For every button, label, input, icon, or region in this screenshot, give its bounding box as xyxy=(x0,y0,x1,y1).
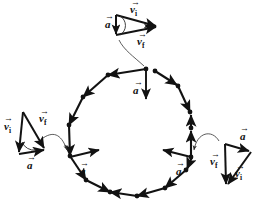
triangle-top-v-initial-sub: i xyxy=(135,9,137,18)
triangle-left-angle-arc xyxy=(22,142,36,150)
polygon-edge xyxy=(86,180,110,192)
triangle-right-acceleration-label: a xyxy=(240,130,246,142)
polygon-vertex xyxy=(184,168,189,173)
vector-triangle-left: → vi → vf → a xyxy=(4,106,49,171)
accel-top-group: → a xyxy=(133,70,146,99)
polygon-edge-group-lower-left xyxy=(70,156,110,192)
triangle-top-acceleration-label: a xyxy=(105,18,111,30)
figure-canvas: → a → a → a xyxy=(0,0,259,211)
connector-right xyxy=(194,134,219,150)
polygon-vertex xyxy=(108,190,113,195)
accel-right-group: → a xyxy=(163,150,191,177)
polygon-edge xyxy=(83,75,108,97)
polygon-vertex xyxy=(67,123,72,128)
polygon-vertex xyxy=(189,126,194,131)
accel-top-label: a xyxy=(133,84,139,96)
triangle-right-acceleration-arrow xyxy=(225,144,249,151)
polygon-vertex xyxy=(163,186,168,191)
triangle-top-v-final-sub: f xyxy=(142,41,145,50)
polygon-vertex xyxy=(188,110,193,115)
acceleration-arrow-left xyxy=(70,150,99,157)
polygon-vertex xyxy=(153,69,158,74)
polygon-vertex xyxy=(81,95,86,100)
polygon-vertex xyxy=(106,73,111,78)
triangle-right-v-final-sub: f xyxy=(215,161,218,170)
accel-right-label: a xyxy=(176,165,182,177)
polygon-edge xyxy=(69,97,83,125)
polygon-edge xyxy=(110,192,137,196)
polygon-vertex xyxy=(135,194,140,199)
polygon-edge xyxy=(108,69,146,75)
polygon-edge xyxy=(178,86,190,112)
polygon-edge xyxy=(69,125,70,156)
triangle-right-v-final-arrow xyxy=(225,144,226,184)
circular-motion-figure: → a → a → a xyxy=(0,0,259,211)
triangle-left-v-final-sub: f xyxy=(44,118,47,127)
triangle-top-angle-arc xyxy=(120,16,125,35)
polygon-edge-group-upper-right xyxy=(155,71,190,112)
polygon-vertex xyxy=(84,178,89,183)
connector-left xyxy=(43,134,67,150)
vector-triangle-top: → vi → a → vf xyxy=(105,0,156,50)
polygon-edge xyxy=(137,188,165,196)
accel-left-label: a xyxy=(80,165,86,177)
triangle-right-v-initial-sub: i xyxy=(240,173,242,182)
acceleration-arrow-right xyxy=(163,150,191,157)
polygon-path xyxy=(67,67,194,199)
acceleration-markers: → a → a → a xyxy=(70,70,191,177)
polygon-edge xyxy=(155,71,177,85)
triangle-left-v-initial-arrow xyxy=(19,112,23,152)
vector-triangle-right: → a → vf → vi xyxy=(210,123,251,184)
polygon-vertex xyxy=(176,84,181,89)
triangle-left-v-initial-sub: i xyxy=(9,126,11,135)
triangle-left-acceleration-label: a xyxy=(27,159,33,171)
